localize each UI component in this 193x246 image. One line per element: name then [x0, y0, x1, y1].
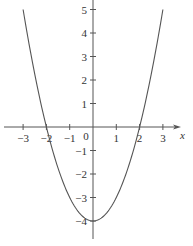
axes: [4, 0, 181, 239]
origin-label: 0: [83, 130, 89, 142]
x-tick-label: 3: [160, 132, 166, 144]
x-tick-label: 1: [114, 132, 120, 144]
y-tick-label: −4: [75, 215, 87, 227]
y-tick-label: 3: [82, 51, 88, 63]
tick-labels: −3−2−11230x54321−1−2−3−4: [17, 4, 185, 228]
parabola-chart: −3−2−11230x54321−1−2−3−4: [0, 0, 193, 246]
y-tick-label: −1: [75, 145, 87, 157]
x-tick-label: −1: [64, 132, 76, 144]
y-tick-label: 2: [82, 74, 88, 86]
y-tick-label: −3: [75, 192, 87, 204]
x-axis-label: x: [179, 129, 185, 141]
y-tick-label: 4: [82, 27, 88, 39]
y-tick-label: 1: [82, 98, 88, 110]
y-tick-label: −2: [75, 168, 87, 180]
x-tick-label: −3: [17, 132, 29, 144]
y-tick-label: 5: [82, 4, 88, 16]
